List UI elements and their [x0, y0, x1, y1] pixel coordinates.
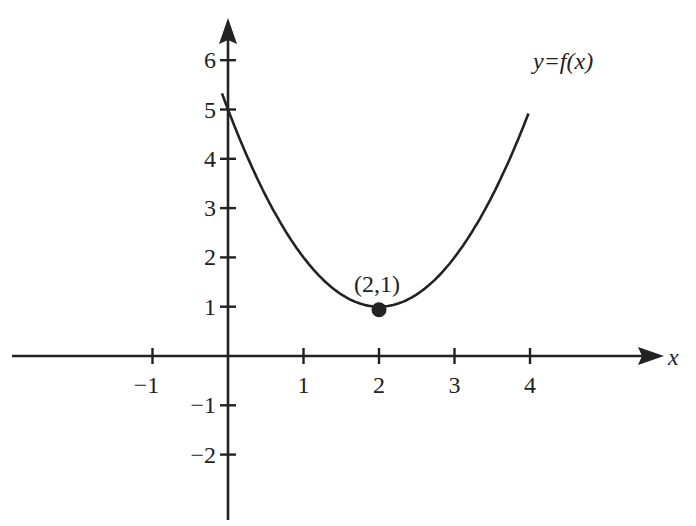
y-tick-label: 3: [204, 195, 216, 221]
x-tick-label: 3: [449, 372, 461, 398]
y-tick-label: −1: [190, 392, 216, 418]
x-tick-label: 1: [298, 372, 310, 398]
graph-canvas: −11234 −2−1123456 (2,1) y=f(x) x: [0, 0, 696, 526]
y-tick-label: 2: [204, 244, 216, 270]
y-axis: [219, 18, 237, 520]
x-tick-label: 4: [524, 372, 536, 398]
vertex-point: [372, 302, 387, 317]
x-axis-label: x: [667, 344, 679, 370]
y-tick-label: −2: [190, 442, 216, 468]
y-tick-label: 1: [204, 294, 216, 320]
vertex-label: (2,1): [354, 271, 400, 297]
y-tick-label: 6: [204, 47, 216, 73]
x-tick-label: −1: [134, 372, 160, 398]
x-tick-label: 2: [373, 372, 385, 398]
function-label: y=f(x): [531, 48, 593, 74]
y-tick-label: 4: [204, 146, 216, 172]
x-axis: [12, 347, 664, 365]
y-tick-label: 5: [204, 97, 216, 123]
